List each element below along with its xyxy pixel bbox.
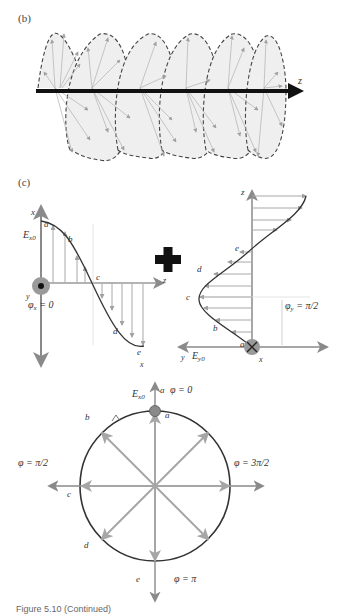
helix-envelope xyxy=(38,33,286,160)
svg-text:φx = 0: φx = 0 xyxy=(28,299,53,312)
x-component-plot: x a Ex0 b c z y φx = 0 d e x xyxy=(22,207,167,369)
svg-text:Ey0: Ey0 xyxy=(191,350,205,363)
plus-icon xyxy=(155,247,181,272)
svg-text:z: z xyxy=(240,187,245,197)
svg-text:x: x xyxy=(30,207,35,217)
svg-text:e: e xyxy=(136,574,140,584)
svg-text:e: e xyxy=(137,347,141,357)
svg-text:d: d xyxy=(113,326,118,336)
svg-text:x: x xyxy=(139,360,144,369)
svg-text:a: a xyxy=(165,410,170,420)
svg-text:φ = 3π/2: φ = 3π/2 xyxy=(234,457,269,468)
panel-c-label: (c) xyxy=(18,176,30,188)
svg-text:b: b xyxy=(85,412,90,422)
svg-text:b: b xyxy=(213,323,218,333)
z-axis-label: z xyxy=(297,75,302,86)
y-component-plot: z e d c φy = π/2 b a y Ey0 x xyxy=(180,187,326,364)
svg-text:Ex0: Ex0 xyxy=(22,229,36,242)
svg-text:z: z xyxy=(162,276,167,285)
x-cosine-curve xyxy=(41,221,144,346)
svg-text:x: x xyxy=(258,355,263,364)
svg-text:b: b xyxy=(68,234,73,244)
svg-text:a: a xyxy=(240,339,245,349)
polarization-circle: Ex0 a φ = 0 a b φ = π/2 φ = 3π/2 c d e φ… xyxy=(18,384,269,600)
start-point-marker xyxy=(150,406,161,417)
svg-text:φ = 0: φ = 0 xyxy=(170,384,192,395)
svg-text:φ = π: φ = π xyxy=(174,573,197,584)
svg-text:y: y xyxy=(25,292,30,301)
svg-text:c: c xyxy=(96,272,100,282)
x-axis-in-marker xyxy=(244,339,260,355)
svg-text:a: a xyxy=(160,385,165,395)
helix-diagram: z xyxy=(0,0,340,175)
svg-text:a: a xyxy=(44,219,49,229)
svg-text:d: d xyxy=(84,540,89,550)
svg-text:e: e xyxy=(235,243,239,253)
svg-text:Ex0: Ex0 xyxy=(131,388,145,401)
svg-text:c: c xyxy=(186,292,190,302)
y-sine-curve xyxy=(199,196,306,347)
y-axis-out-marker xyxy=(32,277,50,295)
svg-text:φy = π/2: φy = π/2 xyxy=(285,300,318,313)
svg-text:φ = π/2: φ = π/2 xyxy=(18,457,48,468)
svg-text:d: d xyxy=(197,264,202,274)
figure-caption: Figure 5.10 (Continued) xyxy=(16,604,111,614)
svg-text:c: c xyxy=(67,489,71,499)
svg-text:y: y xyxy=(180,353,185,362)
